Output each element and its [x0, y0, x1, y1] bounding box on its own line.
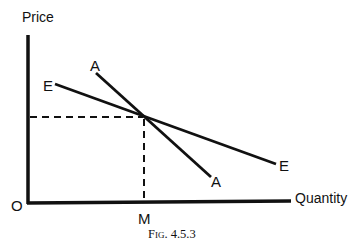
curve-a-end-label: A — [211, 173, 221, 190]
figure-caption: Fig. 4.5.3 — [148, 227, 196, 241]
quantity-m-label: M — [138, 210, 151, 227]
x-axis-label: Quantity — [295, 190, 347, 206]
curve-a-start-label: A — [90, 57, 100, 74]
origin-label: O — [11, 197, 23, 214]
y-axis-label: Price — [22, 9, 54, 25]
curve-e-start-label: E — [43, 77, 53, 94]
curve-e — [55, 84, 276, 164]
curve-e-end-label: E — [279, 157, 289, 174]
demand-curves-diagram: Price Quantity O M E E A A Fig. 4.5.3 — [0, 0, 359, 249]
x-axis — [27, 201, 291, 203]
curve-a — [96, 73, 211, 177]
